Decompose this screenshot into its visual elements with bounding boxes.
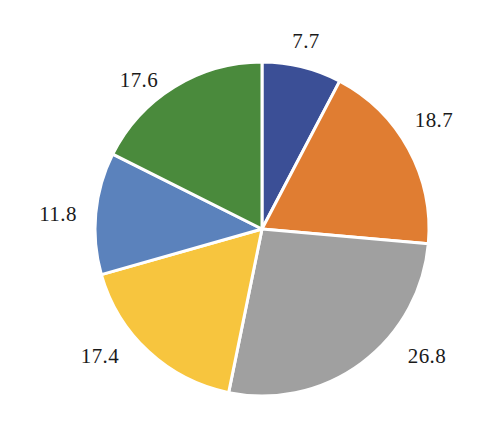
- slice-label-1: 7.7: [292, 31, 319, 52]
- slice-label-3: 26.8: [408, 346, 446, 367]
- slice-label-2: 18.7: [415, 110, 453, 131]
- pie-slice-gray[interactable]: [229, 229, 429, 396]
- slice-label-6: 17.6: [120, 70, 158, 91]
- slice-label-4: 17.4: [81, 346, 119, 367]
- pie-chart-figure: 7.7 18.7 26.8 17.4 11.8 17.6: [0, 0, 488, 422]
- pie-slice-group: [95, 62, 429, 396]
- slice-label-5: 11.8: [39, 204, 77, 225]
